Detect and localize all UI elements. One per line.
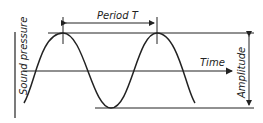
sound-wave-diagram: Period T Time Sound pressure Amplitude [0, 0, 263, 123]
time-label: Time [200, 57, 225, 68]
period-label: Period T [97, 10, 139, 21]
amplitude-label: Amplitude [236, 47, 247, 99]
sound-pressure-label: Sound pressure [18, 17, 29, 95]
